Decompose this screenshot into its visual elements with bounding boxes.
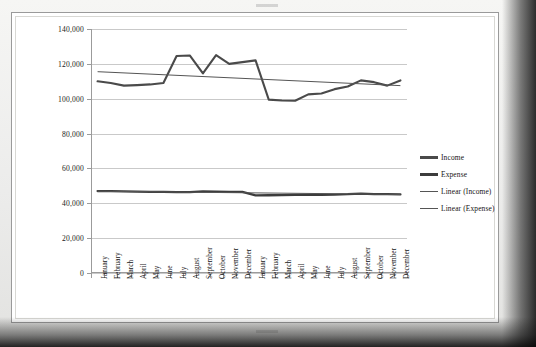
y-axis-tick-label: 20,000 <box>62 234 84 243</box>
chart-card[interactable]: 140,000120,000100,00080,00060,00040,0002… <box>11 12 499 323</box>
trendline-linear-income- <box>98 72 401 86</box>
scan-artifact-top <box>256 4 278 7</box>
y-axis-tick-label: 60,000 <box>62 164 84 173</box>
legend-swatch-icon <box>420 191 438 192</box>
legend-item-linear-expense-[interactable]: Linear (Expense) <box>420 200 496 217</box>
legend-item-expense[interactable]: Expense <box>420 166 496 183</box>
chart-legend[interactable]: IncomeExpenseLinear (Income)Linear (Expe… <box>420 149 496 217</box>
legend-item-linear-income-[interactable]: Linear (Income) <box>420 183 496 200</box>
y-axis-labels: 140,000120,000100,00080,00060,00040,0002… <box>22 13 84 322</box>
y-axis-tick-label: 100,000 <box>58 94 84 103</box>
y-axis-tick-label: 140,000 <box>58 25 84 34</box>
y-axis-tick-label: 120,000 <box>58 59 84 68</box>
chart-series-layer <box>91 29 407 273</box>
legend-label: Income <box>441 153 464 162</box>
x-axis-labels: JanuaryFebruaryMarchAprilMayJuneJulyAugu… <box>91 279 407 339</box>
x-axis-tick <box>91 273 92 278</box>
y-axis-tick-label: 0 <box>80 269 84 278</box>
series-line-income <box>98 55 401 101</box>
legend-swatch-icon <box>420 173 438 176</box>
legend-label: Linear (Expense) <box>441 204 495 213</box>
legend-label: Expense <box>441 170 467 179</box>
legend-swatch-icon <box>420 208 438 209</box>
chart-plot-wrapper: 140,000120,000100,00080,00060,00040,0002… <box>12 13 498 322</box>
legend-item-income[interactable]: Income <box>420 149 496 166</box>
legend-label: Linear (Income) <box>441 187 491 196</box>
legend-swatch-icon <box>420 156 438 159</box>
y-axis-tick-label: 40,000 <box>62 199 84 208</box>
y-axis-tick-label: 80,000 <box>62 129 84 138</box>
screenshot-canvas: 140,000120,000100,00080,00060,00040,0002… <box>0 0 536 347</box>
page-shadow-right <box>502 0 536 347</box>
